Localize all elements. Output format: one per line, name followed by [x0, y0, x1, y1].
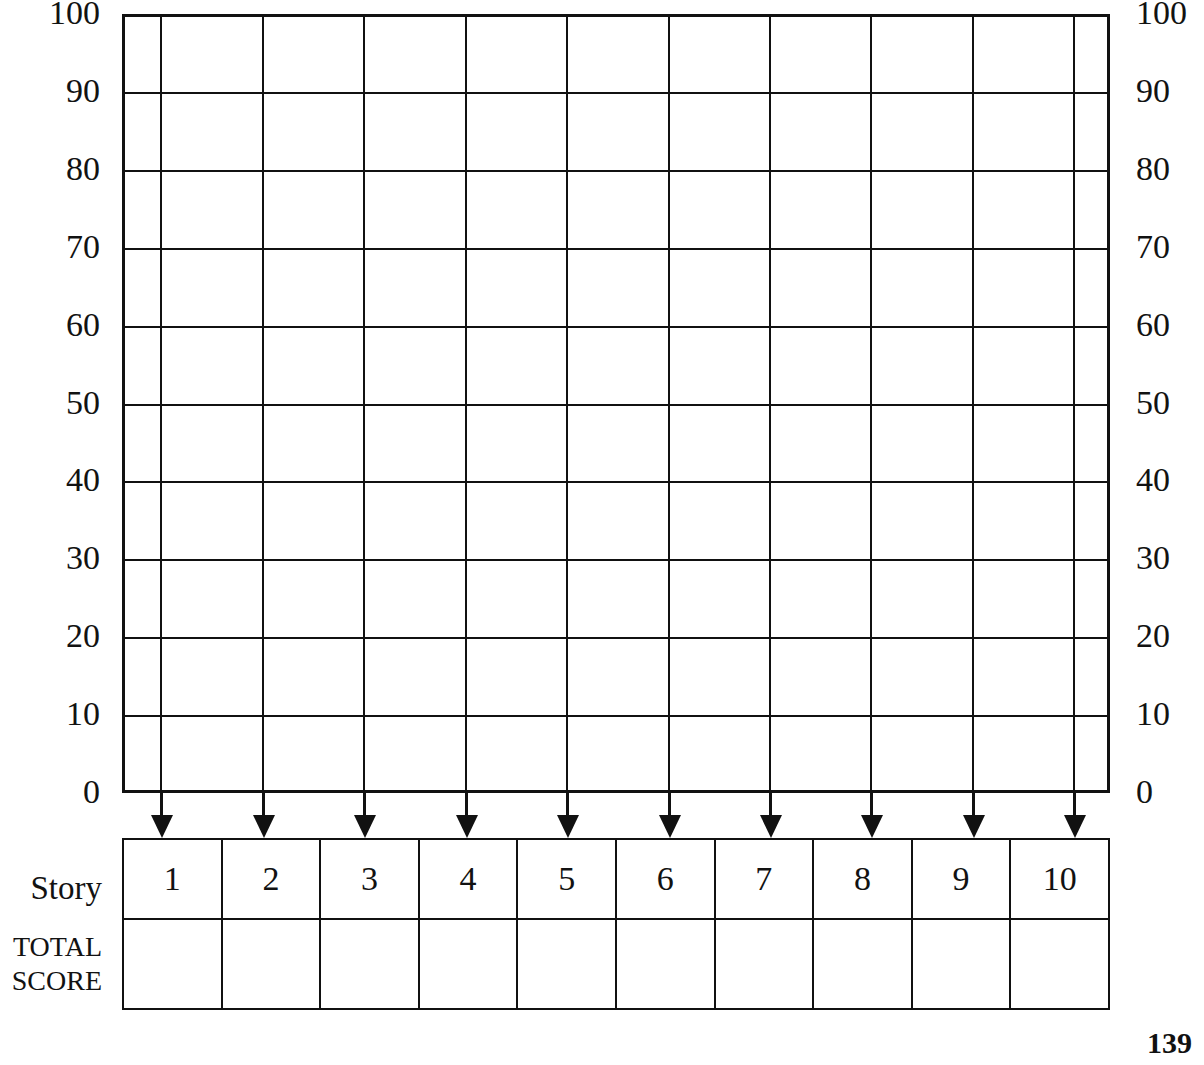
right-axis-tick-70: 70 [1136, 230, 1204, 264]
right-axis-tick-50: 50 [1136, 386, 1204, 420]
story-score-table[interactable]: 12345678910 [122, 838, 1110, 1010]
gridline-horizontal-90 [125, 92, 1107, 94]
left-axis-tick-80: 80 [0, 152, 100, 186]
total-score-cell-6[interactable] [616, 919, 715, 1009]
total-score-label-line-2: SCORE [0, 964, 102, 998]
gridline-vertical-story-1 [160, 17, 162, 790]
total-score-cell-7[interactable] [715, 919, 814, 1009]
arrow-head [659, 815, 681, 838]
table-row-total-score [123, 919, 1109, 1009]
gridline-horizontal-70 [125, 248, 1107, 250]
story-number-cell-4[interactable]: 4 [419, 839, 518, 919]
arrow-head [963, 815, 985, 838]
table-row-story: 12345678910 [123, 839, 1109, 919]
story-row-label: Story [0, 872, 102, 905]
gridline-vertical-story-7 [769, 17, 771, 790]
arrow-head [1064, 815, 1086, 838]
total-score-row-label: TOTAL SCORE [0, 930, 102, 998]
right-axis-tick-40: 40 [1136, 463, 1204, 497]
total-score-label-line-1: TOTAL [0, 930, 102, 964]
gridline-vertical-story-5 [566, 17, 568, 790]
gridline-vertical-story-10 [1073, 17, 1075, 790]
gridline-vertical-story-3 [363, 17, 365, 790]
right-axis-tick-90: 90 [1136, 74, 1204, 108]
story-number-cell-10[interactable]: 10 [1010, 839, 1109, 919]
arrow-head [557, 815, 579, 838]
story-number-cell-3[interactable]: 3 [320, 839, 419, 919]
arrow-head [760, 815, 782, 838]
gridline-vertical-story-8 [870, 17, 872, 790]
gridline-horizontal-60 [125, 326, 1107, 328]
arrow-head [151, 815, 173, 838]
total-score-cell-9[interactable] [912, 919, 1011, 1009]
story-number-cell-9[interactable]: 9 [912, 839, 1011, 919]
arrow-head [253, 815, 275, 838]
right-axis-tick-20: 20 [1136, 619, 1204, 653]
right-axis-tick-60: 60 [1136, 308, 1204, 342]
left-axis-tick-50: 50 [0, 386, 100, 420]
left-axis-tick-10: 10 [0, 697, 100, 731]
gridline-horizontal-50 [125, 404, 1107, 406]
gridline-vertical-story-6 [668, 17, 670, 790]
gridline-vertical-story-2 [262, 17, 264, 790]
score-grid[interactable] [122, 14, 1110, 793]
story-number-cell-6[interactable]: 6 [616, 839, 715, 919]
gridline-horizontal-30 [125, 559, 1107, 561]
arrow-head [861, 815, 883, 838]
total-score-cell-3[interactable] [320, 919, 419, 1009]
total-score-cell-8[interactable] [813, 919, 912, 1009]
total-score-cell-10[interactable] [1010, 919, 1109, 1009]
page-number: 139 [1100, 1026, 1192, 1060]
arrow-head [456, 815, 478, 838]
gridline-horizontal-80 [125, 170, 1107, 172]
story-number-cell-7[interactable]: 7 [715, 839, 814, 919]
story-number-cell-1[interactable]: 1 [123, 839, 222, 919]
left-axis-tick-70: 70 [0, 230, 100, 264]
right-axis-tick-30: 30 [1136, 541, 1204, 575]
left-axis-tick-100: 100 [0, 0, 100, 30]
left-axis-tick-20: 20 [0, 619, 100, 653]
right-axis-tick-100: 100 [1136, 0, 1204, 30]
left-axis-tick-40: 40 [0, 463, 100, 497]
gridline-horizontal-40 [125, 481, 1107, 483]
total-score-cell-1[interactable] [123, 919, 222, 1009]
gridline-horizontal-10 [125, 715, 1107, 717]
total-score-cell-4[interactable] [419, 919, 518, 1009]
total-score-cell-2[interactable] [222, 919, 321, 1009]
gridline-horizontal-20 [125, 637, 1107, 639]
left-axis-tick-60: 60 [0, 308, 100, 342]
arrow-connectors [0, 793, 1204, 838]
left-axis-tick-30: 30 [0, 541, 100, 575]
story-number-cell-5[interactable]: 5 [517, 839, 616, 919]
right-axis-tick-80: 80 [1136, 152, 1204, 186]
worksheet-page: 1009080706050403020100 10090807060504030… [0, 0, 1204, 1065]
gridline-vertical-story-4 [465, 17, 467, 790]
total-score-cell-5[interactable] [517, 919, 616, 1009]
story-number-cell-8[interactable]: 8 [813, 839, 912, 919]
left-axis-tick-90: 90 [0, 74, 100, 108]
gridline-vertical-story-9 [972, 17, 974, 790]
right-axis-tick-10: 10 [1136, 697, 1204, 731]
arrow-head [354, 815, 376, 838]
story-number-cell-2[interactable]: 2 [222, 839, 321, 919]
